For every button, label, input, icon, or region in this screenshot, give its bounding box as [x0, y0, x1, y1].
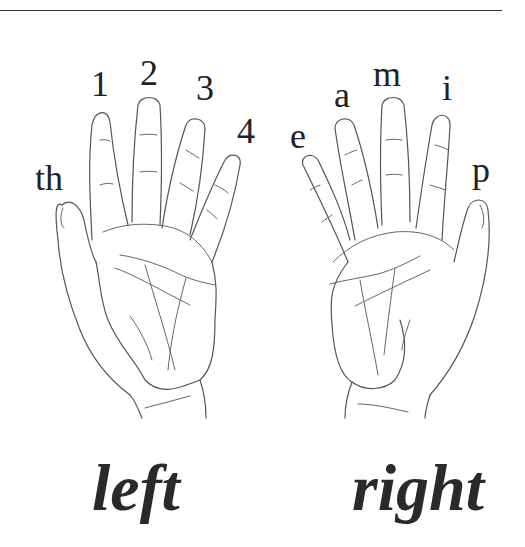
- label-left-thumb: th: [35, 160, 63, 196]
- label-right-middle: m: [373, 56, 401, 92]
- right-hand-drawing: [303, 98, 490, 419]
- label-right-ring: a: [334, 77, 350, 113]
- left-hand-drawing: [56, 98, 240, 419]
- label-left-ring: 3: [196, 70, 214, 106]
- label-left-little: 4: [237, 113, 255, 149]
- caption-right: right: [352, 455, 484, 521]
- label-right-thumb: p: [472, 152, 490, 188]
- caption-left: left: [92, 455, 180, 521]
- label-left-middle: 2: [140, 55, 158, 91]
- label-left-index: 1: [91, 66, 109, 102]
- label-right-little: e: [290, 118, 306, 154]
- label-right-index: i: [442, 70, 452, 106]
